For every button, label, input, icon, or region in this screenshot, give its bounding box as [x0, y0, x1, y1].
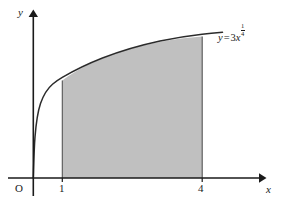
- shaded-area-region: [62, 37, 202, 179]
- origin-label: O: [15, 183, 23, 194]
- x-axis-label: x: [266, 184, 271, 195]
- curve-equation-exponent-fraction: 14: [241, 23, 245, 38]
- x-axis-arrowhead: [259, 173, 267, 183]
- curve-equation-operator: =: [224, 32, 230, 43]
- y-axis-label: y: [18, 7, 23, 18]
- x-tick-label-4: 4: [198, 183, 204, 194]
- y-axis-arrowhead: [29, 10, 38, 18]
- curve-equation-label: y=3x14: [218, 24, 245, 44]
- x-tick-label-1: 1: [59, 183, 65, 194]
- exponent-denominator: 4: [241, 31, 245, 38]
- curve-equation-lhs: y: [218, 32, 223, 43]
- figure-container: y x O 1 4 y=3x14: [0, 0, 281, 208]
